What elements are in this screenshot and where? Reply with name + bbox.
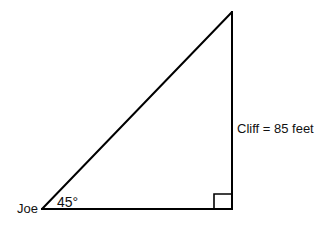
right-angle-marker	[214, 194, 232, 209]
angle-label: 45°	[57, 195, 78, 209]
hypotenuse-line	[42, 12, 232, 209]
triangle-diagram	[0, 0, 332, 225]
cliff-height-label: Cliff = 85 feet	[237, 122, 314, 135]
observer-label: Joe	[17, 202, 38, 215]
